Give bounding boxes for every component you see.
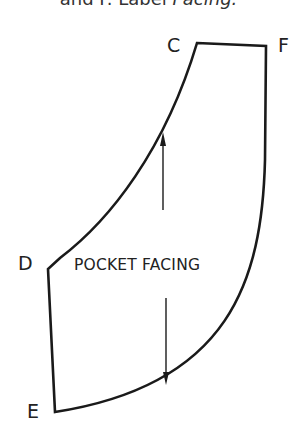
pattern-outline bbox=[48, 43, 266, 412]
pocket-facing-pattern bbox=[0, 0, 297, 424]
grainline-arrow-up bbox=[160, 132, 166, 210]
point-label-c: C bbox=[167, 34, 180, 56]
grainline-arrow-down bbox=[163, 298, 169, 385]
point-label-d: D bbox=[18, 252, 33, 274]
pattern-piece-label: POCKET FACING bbox=[74, 256, 200, 274]
point-label-e: E bbox=[27, 400, 39, 422]
point-label-f: F bbox=[278, 34, 289, 56]
